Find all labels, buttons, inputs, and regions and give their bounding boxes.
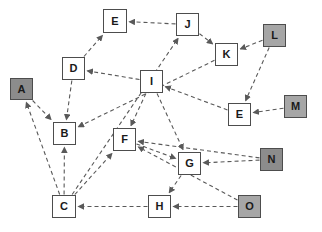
node-label-a: A xyxy=(18,84,26,95)
node-n[interactable]: N xyxy=(260,148,283,171)
edge-m-e2 xyxy=(254,108,284,112)
node-k[interactable]: K xyxy=(215,43,238,66)
edge-a-b xyxy=(33,101,51,120)
node-label-g: G xyxy=(185,158,194,169)
graph-diagram: ABCDEFGHIJKLEMNO xyxy=(0,0,322,232)
edge-c-f xyxy=(75,154,112,195)
node-h[interactable]: H xyxy=(148,195,171,218)
edge-c-a xyxy=(26,103,59,195)
node-b[interactable]: B xyxy=(53,122,76,145)
edge-i-d xyxy=(88,71,140,80)
node-label-k: K xyxy=(223,49,231,60)
edge-l-k xyxy=(241,40,263,49)
edge-i-g xyxy=(157,94,183,150)
edge-n-g xyxy=(204,160,260,163)
node-i[interactable]: I xyxy=(140,70,163,93)
edge-g-h xyxy=(169,176,181,193)
edge-l-e2 xyxy=(246,48,269,101)
node-label-l: L xyxy=(271,30,278,41)
node-e2[interactable]: E xyxy=(228,103,251,126)
node-label-o: O xyxy=(245,201,254,212)
node-f[interactable]: F xyxy=(113,128,136,151)
edge-c-j xyxy=(72,39,178,195)
edge-j-e1 xyxy=(130,22,176,24)
node-d[interactable]: D xyxy=(62,57,85,80)
edge-d-b xyxy=(66,81,71,120)
node-l[interactable]: L xyxy=(263,24,286,47)
node-j[interactable]: J xyxy=(176,13,199,36)
node-label-f: F xyxy=(121,134,128,145)
node-o[interactable]: O xyxy=(238,195,261,218)
node-label-d: D xyxy=(70,63,78,74)
edge-i-f xyxy=(131,94,146,126)
node-label-e1: E xyxy=(111,16,118,27)
node-label-e2: E xyxy=(236,109,243,120)
node-c[interactable]: C xyxy=(52,195,76,218)
edge-e2-i xyxy=(166,87,228,110)
node-m[interactable]: M xyxy=(284,95,307,118)
edge-d-e1 xyxy=(84,36,102,57)
node-label-i: I xyxy=(150,76,153,87)
node-label-h: H xyxy=(156,201,164,212)
node-label-j: J xyxy=(184,19,190,30)
node-a[interactable]: A xyxy=(10,78,33,100)
node-e1[interactable]: E xyxy=(103,9,127,33)
edge-j-k xyxy=(200,34,213,44)
node-label-m: M xyxy=(291,101,300,112)
node-g[interactable]: G xyxy=(178,152,201,175)
node-label-c: C xyxy=(60,201,68,212)
node-label-n: N xyxy=(268,154,276,165)
node-label-b: B xyxy=(61,128,69,139)
